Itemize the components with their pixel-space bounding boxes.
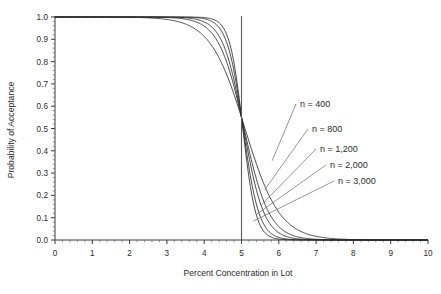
x-tick-label: 8 xyxy=(351,249,356,258)
x-axis-title: Percent Concentration in Lot xyxy=(184,268,294,278)
x-tick-label: 0 xyxy=(53,249,58,258)
series-label: n = 400 xyxy=(300,99,330,109)
series-label: n = 3,000 xyxy=(338,176,376,186)
leader-line xyxy=(272,104,296,161)
leader-line xyxy=(261,149,316,205)
x-tick-label: 4 xyxy=(202,249,207,258)
y-tick-label: 0.1 xyxy=(37,214,49,223)
series-label: n = 1,200 xyxy=(320,144,358,154)
chart-canvas: 012345678910 0.00.10.20.30.40.50.60.70.8… xyxy=(0,0,441,294)
x-axis-ticks xyxy=(55,240,428,244)
y-tick-label: 0.6 xyxy=(37,102,49,111)
series-annotations: n = 400n = 800n = 1,200n = 2,000n = 3,00… xyxy=(300,99,376,186)
y-axis-tick-labels: 0.00.10.20.30.40.50.60.70.80.91.0 xyxy=(37,13,49,245)
leader-line xyxy=(256,165,326,214)
y-tick-label: 0.5 xyxy=(37,125,49,134)
x-axis-tick-labels: 012345678910 xyxy=(53,249,433,258)
x-tick-label: 1 xyxy=(90,249,95,258)
annotation-leader-lines xyxy=(253,104,334,221)
y-axis-title: Probability of Acceptance xyxy=(6,82,16,179)
leader-line xyxy=(265,129,308,190)
x-tick-label: 5 xyxy=(239,249,244,258)
y-tick-label: 0.2 xyxy=(37,191,49,200)
y-tick-label: 0.9 xyxy=(37,35,49,44)
x-tick-label: 10 xyxy=(423,249,433,258)
x-tick-label: 6 xyxy=(277,249,282,258)
x-tick-label: 9 xyxy=(388,249,393,258)
x-tick-label: 2 xyxy=(127,249,132,258)
series-label: n = 800 xyxy=(312,124,342,134)
x-tick-label: 3 xyxy=(165,249,170,258)
y-tick-label: 0.0 xyxy=(37,236,49,245)
y-tick-label: 0.4 xyxy=(37,147,49,156)
y-tick-label: 0.3 xyxy=(37,169,49,178)
y-tick-label: 1.0 xyxy=(37,13,49,22)
y-axis-ticks xyxy=(51,17,55,240)
series-label: n = 2,000 xyxy=(330,160,368,170)
oc-curve-chart: 012345678910 0.00.10.20.30.40.50.60.70.8… xyxy=(0,0,441,294)
y-tick-label: 0.7 xyxy=(37,80,49,89)
x-tick-label: 7 xyxy=(314,249,319,258)
y-tick-label: 0.8 xyxy=(37,58,49,67)
